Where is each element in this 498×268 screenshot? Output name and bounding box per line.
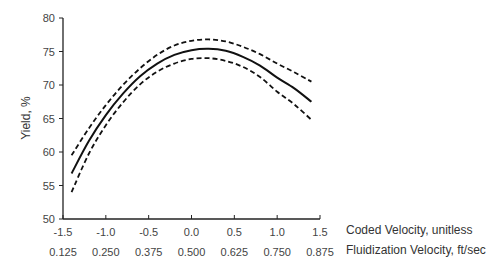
x-tick-secondary-label: 0.500 xyxy=(178,246,206,258)
x-tick-label: -1.0 xyxy=(96,226,115,238)
series-lines xyxy=(72,39,312,192)
x-tick-label: 1.5 xyxy=(312,226,327,238)
x-tick-secondary-label: 0.250 xyxy=(92,246,120,258)
y-tick-label: 55 xyxy=(43,180,55,192)
y-tick-label: 70 xyxy=(43,79,55,91)
predicted-line xyxy=(72,49,312,174)
confidence-bound-line xyxy=(72,58,312,192)
axes: 50556065707580-1.50.125-1.00.250-0.50.37… xyxy=(43,12,334,258)
y-tick-label: 75 xyxy=(43,46,55,58)
x-tick-label: -1.5 xyxy=(54,226,73,238)
y-axis-label: Yield, % xyxy=(19,96,33,140)
x-tick-secondary-label: 0.125 xyxy=(49,246,77,258)
confidence-bound-line xyxy=(72,39,312,155)
x-tick-secondary-label: 0.625 xyxy=(221,246,249,258)
yield-chart: 50556065707580-1.50.125-1.00.250-0.50.37… xyxy=(0,0,498,268)
x-tick-secondary-label: 0.875 xyxy=(306,246,334,258)
x-tick-secondary-label: 0.375 xyxy=(135,246,163,258)
x-axis-secondary-label: Fluidization Velocity, ft/sec xyxy=(346,243,486,257)
y-tick-label: 50 xyxy=(43,213,55,225)
y-tick-label: 65 xyxy=(43,113,55,125)
y-tick-label: 60 xyxy=(43,146,55,158)
x-tick-label: 0.0 xyxy=(184,226,199,238)
x-tick-label: -0.5 xyxy=(139,226,158,238)
x-tick-label: 1.0 xyxy=(270,226,285,238)
x-tick-label: 0.5 xyxy=(227,226,242,238)
x-axis-label: Coded Velocity, unitless xyxy=(346,223,473,237)
x-tick-secondary-label: 0.750 xyxy=(263,246,291,258)
y-tick-label: 80 xyxy=(43,12,55,24)
